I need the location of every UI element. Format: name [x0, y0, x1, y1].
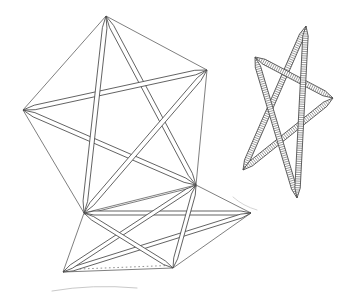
pentagram-strip	[23, 110, 196, 185]
page-curve-below-star	[233, 197, 257, 210]
pentagram-flat	[63, 185, 251, 272]
pentagram-hatched	[240, 26, 335, 198]
pentagon-edge-line	[196, 70, 207, 185]
pentagram-strip	[83, 16, 107, 213]
illustration-page	[0, 0, 355, 295]
pentagram-line-drawing	[0, 0, 355, 295]
pentagram-large	[23, 16, 207, 213]
page-curve-bottom-left	[52, 287, 137, 291]
pentagon-edge-line	[84, 185, 196, 213]
pentagon-edge-line	[196, 185, 251, 213]
pentagram-strip	[84, 211, 251, 215]
pentagram-strip	[63, 213, 251, 272]
